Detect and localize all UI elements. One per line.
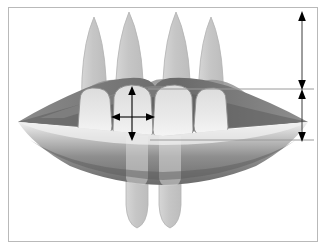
upper-lateral-incisor-right-crown — [194, 88, 228, 136]
upper-central-incisor-right-crown — [153, 85, 193, 140]
smile-measurement-figure — [0, 0, 326, 249]
figure-canvas — [0, 0, 326, 249]
